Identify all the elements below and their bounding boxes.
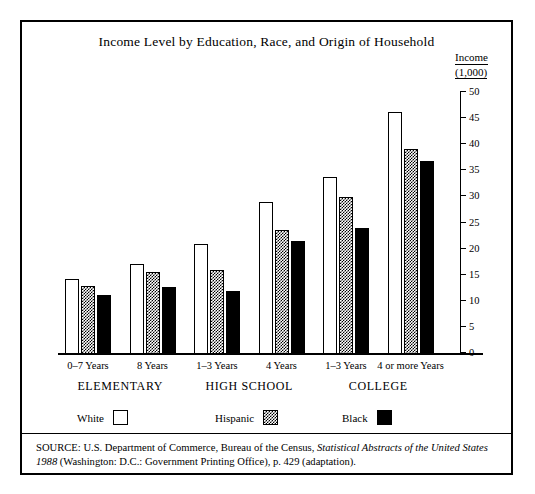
legend-item-black: Black [342, 410, 392, 425]
legend-label: Hispanic [215, 412, 254, 424]
y-axis-tick-label: 45 [469, 113, 480, 124]
y-axis-caption-line2: (1,000) [455, 66, 487, 80]
source-prefix: SOURCE: U.S. Department of Commerce, Bur… [36, 442, 317, 453]
figure-frame: Income Level by Education, Race, and Ori… [20, 20, 513, 475]
y-axis-tick-label: 20 [469, 243, 480, 254]
legend-item-hispanic: Hispanic [215, 410, 278, 425]
y-axis-tick-label: 10 [469, 296, 480, 307]
y-axis-tick [460, 222, 466, 223]
source-italic-title: Statistical Abstracts of the United Stat… [317, 442, 488, 453]
y-axis-tick-label: 35 [469, 165, 480, 176]
y-axis-tick [460, 326, 466, 327]
y-axis-tick [460, 169, 466, 170]
x-axis-tick-label: 1–3 Years [196, 360, 237, 371]
x-axis-group-label: COLLEGE [349, 379, 408, 394]
x-axis-group-label: ELEMENTARY [77, 379, 163, 394]
bar-black-5 [420, 161, 434, 354]
y-axis-caption: Income (1,000) [455, 51, 515, 79]
x-axis-tick-label: 4 Years [266, 360, 297, 371]
y-axis-tick-label: 0 [469, 348, 474, 359]
y-axis-tick [460, 274, 466, 275]
x-axis-group-label: HIGH SCHOOL [205, 379, 293, 394]
source-note: SOURCE: U.S. Department of Commerce, Bur… [36, 441, 499, 468]
chart-legend: WhiteHispanicBlack [22, 408, 511, 434]
y-axis-tick [460, 352, 466, 353]
plot-area [60, 94, 460, 354]
chart-title: Income Level by Education, Race, and Ori… [22, 34, 511, 50]
bar-white-5 [388, 112, 402, 354]
x-axis-tick-label: 0–7 Years [67, 360, 108, 371]
legend-label: White [77, 412, 104, 424]
y-axis-tick [460, 248, 466, 249]
y-axis-tick [460, 117, 466, 118]
y-axis-spine [460, 92, 461, 354]
y-axis-tick [460, 143, 466, 144]
y-axis-tick-label: 30 [469, 191, 480, 202]
legend-item-white: White [77, 410, 128, 425]
legend-label: Black [342, 412, 368, 424]
y-axis-tick-label: 25 [469, 217, 480, 228]
y-axis-tick-label: 15 [469, 269, 480, 280]
y-axis-tick [460, 195, 466, 196]
x-axis-tick-label: 1–3 Years [325, 360, 366, 371]
y-axis-tick-label: 5 [469, 322, 474, 333]
source-divider [22, 433, 511, 434]
solid-black-square-swatch [377, 410, 392, 425]
y-axis-tick [460, 300, 466, 301]
checkered-square-swatch [263, 410, 278, 425]
open-square-swatch [113, 410, 128, 425]
y-axis-tick [460, 91, 466, 92]
x-axis-tick-label: 8 Years [137, 360, 168, 371]
bar-group [60, 94, 460, 354]
y-axis-caption-line1: Income [455, 51, 488, 65]
y-axis-tick-label: 40 [469, 139, 480, 150]
source-suffix: (Washington: D.C.: Government Printing O… [57, 456, 356, 467]
y-axis-tick-label: 50 [469, 87, 480, 98]
source-italic-year: 1988 [36, 456, 57, 467]
x-axis-tick-label: 4 or more Years [377, 360, 444, 371]
bar-hispanic-5 [404, 149, 418, 354]
